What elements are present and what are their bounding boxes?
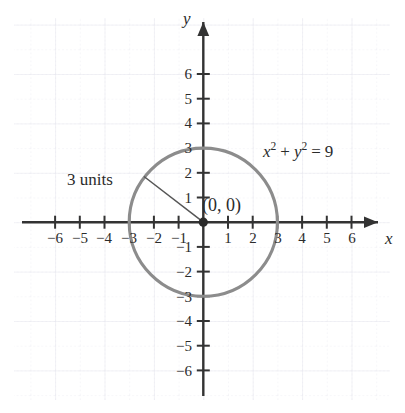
y-tick-label--4: −4 <box>168 314 192 329</box>
y-tick-label-6: 6 <box>176 67 192 82</box>
equation-equals-sign: = <box>311 142 321 161</box>
y-tick-label--2: −2 <box>168 265 192 280</box>
x-tick-label-6: 6 <box>343 231 361 246</box>
equation-value: 9 <box>325 142 334 161</box>
coordinate-plane-figure: x y −6 −5 −4 −3 −2 −1 1 2 3 4 5 6 6 5 4 … <box>0 0 405 413</box>
origin-point-label: (0, 0) <box>202 196 241 214</box>
x-tick-label-2: 2 <box>244 231 262 246</box>
x-tick-label-3: 3 <box>269 231 287 246</box>
x-tick-label-4: 4 <box>293 231 311 246</box>
x-axis-label: x <box>385 230 393 247</box>
x-tick-label--2: −2 <box>141 231 167 246</box>
y-axis-label: y <box>183 10 191 27</box>
y-tick-label-1: 1 <box>176 191 192 206</box>
circle-equation-label: x2+y2=9 <box>263 141 333 160</box>
equation-x-exponent: 2 <box>271 140 277 153</box>
equation-plus-sign: + <box>280 142 290 161</box>
y-tick-label-3: 3 <box>176 141 192 156</box>
equation-x-term: x <box>263 142 271 161</box>
equation-y-exponent: 2 <box>301 140 307 153</box>
y-tick-label-4: 4 <box>176 116 192 131</box>
x-tick-label-5: 5 <box>318 231 336 246</box>
origin-point <box>199 218 208 227</box>
y-tick-label--6: −6 <box>168 364 192 379</box>
x-tick-label--5: −5 <box>67 231 93 246</box>
y-tick-label-5: 5 <box>176 92 192 107</box>
x-tick-label-1: 1 <box>219 231 237 246</box>
y-tick-label--3: −3 <box>168 290 192 305</box>
radius-callout-label: 3 units <box>67 171 113 188</box>
y-tick-label-2: 2 <box>176 166 192 181</box>
y-tick-label--1: −1 <box>168 240 192 255</box>
x-tick-label--4: −4 <box>91 231 117 246</box>
x-tick-label--3: −3 <box>116 231 142 246</box>
x-tick-label--6: −6 <box>42 231 68 246</box>
y-tick-label--5: −5 <box>168 339 192 354</box>
